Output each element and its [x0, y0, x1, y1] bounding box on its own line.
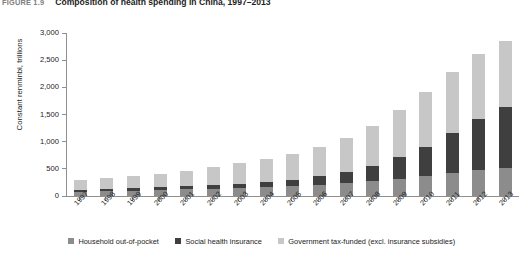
y-tick-label: 0: [55, 191, 59, 200]
bar-segment: [393, 110, 406, 157]
x-tick-label-wrap: 2002: [206, 200, 219, 228]
y-tick-label: 500: [46, 164, 59, 173]
x-tick-label-wrap: 2005: [285, 200, 298, 228]
bar-segment: [366, 166, 379, 181]
bar-segment: [472, 119, 485, 170]
legend-item: Government tax-funded (excl. insurance s…: [278, 237, 455, 246]
y-tick-label: 1,000: [40, 137, 59, 146]
bar-segment: [472, 54, 485, 119]
bar-2007: [340, 138, 353, 196]
legend-swatch: [278, 238, 285, 245]
x-tick-label-wrap: 2010: [418, 200, 431, 228]
figure-container: FIGURE 1.9 Composition of health spendin…: [0, 0, 523, 259]
y-axis-title: Constant renminbi, trillions: [15, 10, 24, 160]
x-tick-label-wrap: 2013: [498, 200, 511, 228]
bar-segment: [499, 107, 512, 167]
x-tick-label-wrap: 2006: [312, 200, 325, 228]
legend-label: Social health insurance: [185, 237, 261, 246]
y-axis: 05001,0001,5002,0002,5003,000: [0, 33, 66, 196]
x-tick-label-wrap: 2008: [365, 200, 378, 228]
bar-segment: [313, 176, 326, 184]
x-tick-label-wrap: 1997: [73, 200, 86, 228]
x-tick-label-wrap: 2011: [445, 200, 458, 228]
legend: Household out-of-pocketSocial health ins…: [0, 235, 523, 247]
y-tick-label: 2,000: [40, 82, 59, 91]
legend-item: Household out-of-pocket: [68, 237, 159, 246]
bar-segment: [366, 126, 379, 166]
x-axis-labels: 1997199819992000200120022003200420052006…: [66, 200, 518, 228]
figure-title-bar: FIGURE 1.9 Composition of health spendin…: [0, 0, 523, 12]
x-tick-label-wrap: 1998: [99, 200, 112, 228]
legend-label: Government tax-funded (excl. insurance s…: [288, 237, 455, 246]
bar-segment: [260, 159, 273, 182]
bar-2013: [499, 41, 512, 196]
legend-item: Social health insurance: [175, 237, 262, 246]
x-tick-label-wrap: 2001: [179, 200, 192, 228]
bar-segment: [180, 171, 193, 186]
x-tick-label-wrap: 2012: [471, 200, 484, 228]
bar-segment: [233, 163, 246, 183]
bar-segment: [207, 167, 220, 185]
bar-segment: [419, 92, 432, 147]
bar-2009: [393, 110, 406, 196]
legend-swatch: [175, 238, 182, 245]
y-tick-label: 2,500: [40, 55, 59, 64]
bar-segment: [100, 178, 113, 189]
plot-area: [66, 33, 519, 197]
y-tick-label: 3,000: [40, 28, 59, 37]
x-tick-label-wrap: 2007: [339, 200, 352, 228]
bar-group: [67, 33, 519, 196]
x-tick-label-wrap: 1999: [126, 200, 139, 228]
y-tick-label: 1,500: [40, 110, 59, 119]
figure-number: FIGURE 1.9: [2, 0, 44, 7]
bar-2012: [472, 54, 485, 196]
x-tick-label-wrap: 2009: [392, 200, 405, 228]
bar-segment: [313, 147, 326, 176]
x-tick-label-wrap: 2004: [259, 200, 272, 228]
bar-segment: [446, 133, 459, 173]
bar-segment: [340, 172, 353, 183]
page-title: Composition of health spending in China,…: [55, 0, 270, 7]
bar-2006: [313, 147, 326, 196]
legend-swatch: [68, 238, 75, 245]
bar-segment: [499, 41, 512, 107]
bar-2011: [446, 72, 459, 196]
bar-2010: [419, 92, 432, 196]
bar-segment: [340, 138, 353, 172]
bar-segment: [127, 176, 140, 188]
bar-segment: [446, 72, 459, 133]
bar-segment: [154, 174, 167, 188]
x-tick-label-wrap: 2000: [153, 200, 166, 228]
bar-segment: [419, 147, 432, 176]
x-tick-label-wrap: 2003: [232, 200, 245, 228]
bar-2008: [366, 126, 379, 196]
legend-label: Household out-of-pocket: [78, 237, 159, 246]
bar-segment: [74, 180, 87, 190]
bar-segment: [393, 157, 406, 179]
bar-segment: [286, 154, 299, 180]
